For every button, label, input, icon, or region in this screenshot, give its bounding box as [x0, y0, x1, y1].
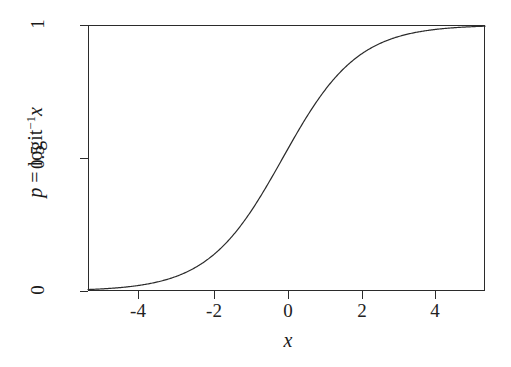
figure-canvas: -4 -2 0 2 4 0 0.5 1 x p = logit−1x — [0, 0, 511, 367]
y-axis-title-arg: x — [24, 107, 46, 116]
y-ticklabel-one: 1 — [27, 0, 49, 62]
x-ticklabel-minus2: -2 — [194, 300, 234, 322]
x-tick-mark — [138, 291, 139, 299]
x-tick-mark — [288, 291, 289, 299]
y-tick-mark — [80, 158, 88, 159]
y-ticklabel-zero: 0 — [27, 252, 49, 328]
y-tick-mark — [80, 25, 88, 26]
y-axis-title-equals: = — [24, 166, 46, 187]
logistic-curve-layer — [88, 25, 485, 291]
x-ticklabel-four: 4 — [415, 300, 455, 322]
y-axis-title-p: p — [24, 188, 46, 198]
x-tick-mark — [214, 291, 215, 299]
y-ticklabel-one-wrap: 1 — [0, 13, 76, 37]
x-tick-mark — [435, 291, 436, 299]
x-tick-mark — [362, 291, 363, 299]
y-axis-title-exponent: −1 — [23, 116, 38, 130]
y-ticklabel-zero-wrap: 0 — [0, 279, 76, 303]
x-ticklabel-minus4: -4 — [118, 300, 158, 322]
x-ticklabel-zero: 0 — [268, 300, 308, 322]
x-axis-title: x — [268, 329, 308, 352]
logistic-curve-path — [88, 26, 485, 289]
y-axis-title-logit: logit — [24, 130, 46, 167]
x-ticklabel-two: 2 — [342, 300, 382, 322]
y-axis-title: p = logit−1x — [23, 72, 48, 232]
y-tick-mark — [80, 291, 88, 292]
